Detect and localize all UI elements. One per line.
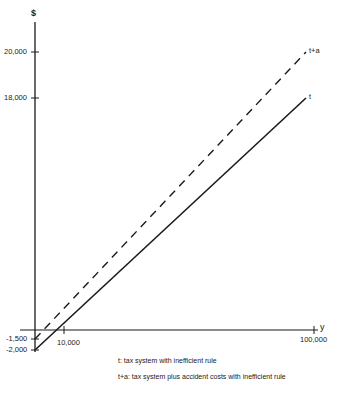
y-tick-label-neg1500: -1,500 xyxy=(6,334,27,343)
series-label-t-plus-a: t+a xyxy=(309,46,320,55)
y-axis-label: $ xyxy=(31,8,36,18)
series-t-plus-a-line xyxy=(35,52,306,339)
series-t-line xyxy=(35,98,306,350)
y-tick-label-neg2000: -2,000 xyxy=(6,345,27,354)
legend-entry-t-plus-a: t+a: tax system plus accident costs with… xyxy=(118,373,286,380)
x-axis-label: y xyxy=(320,322,325,332)
y-tick-label-20000: 20,000 xyxy=(4,47,27,56)
x-tick-label-10000: 10,000 xyxy=(57,338,80,347)
legend-entry-t: t: tax system with inefficient rule xyxy=(118,357,217,364)
x-tick-label-100000: 100,000 xyxy=(300,335,327,344)
series-label-t: t xyxy=(309,92,311,101)
chart-canvas xyxy=(0,0,341,393)
y-tick-label-18000: 18,000 xyxy=(4,93,27,102)
